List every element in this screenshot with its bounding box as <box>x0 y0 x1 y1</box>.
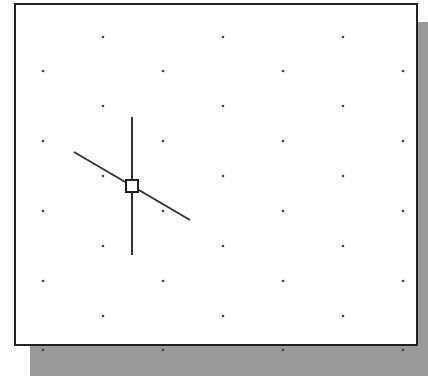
grid-dot <box>402 349 405 352</box>
grid-dot <box>282 280 285 283</box>
grid-dot <box>162 210 165 213</box>
grid-dot <box>42 280 45 283</box>
grid-dot <box>342 245 345 248</box>
grid-dot <box>282 70 285 73</box>
grid-dot <box>342 175 345 178</box>
grid-dot <box>102 36 105 39</box>
grid-dot <box>222 315 225 318</box>
grid-dot <box>42 140 45 143</box>
grid-dot <box>102 245 105 248</box>
grid-dot <box>282 210 285 213</box>
grid-dot <box>222 105 225 108</box>
grid-dot <box>282 349 285 352</box>
grid-dot <box>342 315 345 318</box>
pickbox-cursor-icon <box>126 180 138 192</box>
grid-dot <box>42 70 45 73</box>
grid-dot <box>102 175 105 178</box>
grid-dot <box>162 140 165 143</box>
grid-dot <box>402 280 405 283</box>
grid-dot <box>162 280 165 283</box>
grid-dot <box>222 36 225 39</box>
grid-dot <box>222 175 225 178</box>
grid-dot <box>282 140 285 143</box>
grid-dot <box>162 349 165 352</box>
grid-dot <box>402 140 405 143</box>
grid-dot <box>102 315 105 318</box>
snap-grid-dots <box>42 36 405 352</box>
grid-dot <box>162 70 165 73</box>
grid-dot <box>402 70 405 73</box>
grid-dot <box>342 105 345 108</box>
drawing-canvas[interactable] <box>0 0 428 376</box>
grid-dot <box>342 36 345 39</box>
grid-dot <box>402 210 405 213</box>
grid-dot <box>42 349 45 352</box>
grid-dot <box>102 105 105 108</box>
grid-dot <box>222 245 225 248</box>
grid-dot <box>42 210 45 213</box>
